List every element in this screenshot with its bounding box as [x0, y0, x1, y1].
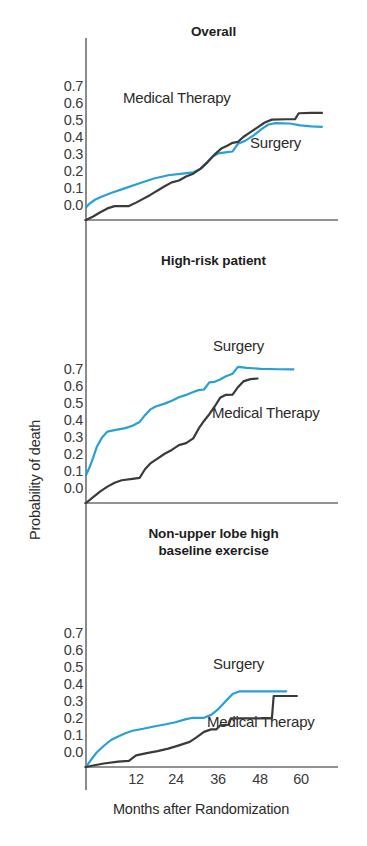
- curve-non-upper-lobe-high-baseline-exercise-medical-therapy: [86, 696, 297, 767]
- plot-canvas: [0, 0, 367, 846]
- axes-group: [84, 38, 338, 790]
- curve-high-risk-patient-surgery: [86, 367, 293, 475]
- curve-high-risk-patient-medical-therapy: [86, 379, 258, 503]
- curves-group: [86, 113, 322, 767]
- curve-overall-medical-therapy: [86, 113, 322, 220]
- curve-non-upper-lobe-high-baseline-exercise-surgery: [86, 691, 286, 767]
- kaplan-meier-figure: Probability of death Overall 0.7 0.6 0.5…: [0, 0, 367, 846]
